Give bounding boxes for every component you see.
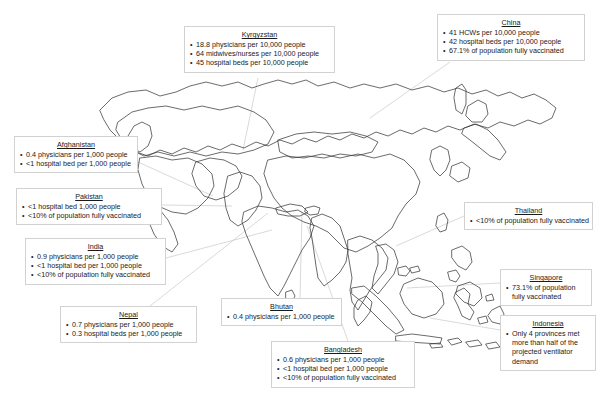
callout-title: Thailand <box>470 206 587 215</box>
callout-items: 0.4 physicians per 1,000 people <box>227 312 336 321</box>
leader-line-nepal <box>150 213 268 306</box>
outline-china <box>264 154 420 252</box>
leader-line-thailand <box>396 216 464 246</box>
callout-item: <10% of population fully vaccinated <box>31 270 160 279</box>
callout-kyrgyzstan[interactable]: Kyrgyzstan 18.8 physicians per 10,000 pe… <box>184 26 335 73</box>
callout-title: Pakistan <box>22 192 156 201</box>
outline-island-b <box>486 294 494 301</box>
callout-item: 0.4 physicians per 1,000 people <box>20 150 132 159</box>
callout-title: China <box>443 18 579 27</box>
leader-line-indonesia <box>430 318 500 330</box>
callout-item: 41 HCWs per 10,000 people <box>443 28 579 37</box>
outline-philippines-visayas <box>448 270 460 282</box>
callout-singapore[interactable]: Singapore 73.1% of population fully vacc… <box>500 269 592 306</box>
callout-title: Bhutan <box>227 302 336 311</box>
leader-line-pakistan <box>162 205 232 206</box>
callout-item: 42 hospital beds per 10,000 people <box>443 37 579 46</box>
callout-item: 67.1% of population fully vaccinated <box>443 46 579 55</box>
callout-pakistan[interactable]: Pakistan <1 hospital bed 1,000 people <1… <box>16 188 162 225</box>
outline-philippines-luzon <box>452 246 472 270</box>
leader-line-india <box>166 230 272 258</box>
callout-title: India <box>31 242 160 251</box>
callout-item: <1 hospital bed per 1,000 people <box>20 159 132 168</box>
callout-item: Only 4 provinces met more than half of t… <box>506 329 590 366</box>
callout-items: 0.6 physicians per 1,000 people <1 hospi… <box>277 355 409 383</box>
callout-items: 0.7 physicians per 1,000 people 0.3 hosp… <box>66 320 191 338</box>
callout-items: Only 4 provinces met more than half of t… <box>506 329 590 366</box>
outline-japan-hokkaido <box>466 100 488 122</box>
callout-title: Singapore <box>506 273 586 282</box>
callout-bhutan[interactable]: Bhutan 0.4 physicians per 1,000 people <box>221 298 342 326</box>
callout-items: 73.1% of population fully vaccinated <box>506 283 586 301</box>
outline-vietnam <box>372 244 398 294</box>
callout-india[interactable]: India 0.9 physicians per 1,000 people <1… <box>25 238 166 285</box>
callout-items: 0.9 physicians per 1,000 people <1 hospi… <box>31 252 160 280</box>
callout-item: <10% of population fully vaccinated <box>277 373 409 382</box>
outline-bhutan <box>305 206 320 215</box>
outline-malay-peninsula <box>354 296 372 326</box>
outline-japan-honshu <box>462 124 506 160</box>
callout-bangladesh[interactable]: Bangladesh 0.6 physicians per 1,000 peop… <box>271 341 415 388</box>
outline-nepal <box>276 204 308 216</box>
callout-afghanistan[interactable]: Afghanistan 0.4 physicians per 1,000 peo… <box>14 136 138 173</box>
figure-canvas: Kyrgyzstan 18.8 physicians per 10,000 pe… <box>0 0 606 402</box>
outline-afghanistan <box>192 158 242 200</box>
outline-sunda-1 <box>448 338 462 345</box>
callout-item: <1 hospital bed per 1,000 people <box>31 261 160 270</box>
callout-item: 73.1% of population fully vaccinated <box>506 283 586 301</box>
callout-title: Bangladesh <box>277 345 409 354</box>
outline-korea <box>430 146 450 176</box>
callout-items: 41 HCWs per 10,000 people 42 hospital be… <box>443 28 579 56</box>
callout-item: <1 hospital bed 1,000 people <box>22 202 156 211</box>
leader-line-bhutan <box>300 212 302 298</box>
outline-philippines-mindanao <box>456 282 482 306</box>
outline-taiwan <box>436 213 448 232</box>
callout-item: 0.4 physicians per 1,000 people <box>227 312 336 321</box>
outline-indochina <box>348 236 388 310</box>
callout-item: <10% of population fully vaccinated <box>22 211 156 220</box>
callout-title: Indonesia <box>506 319 590 328</box>
callout-title: Afghanistan <box>20 140 132 149</box>
leader-line-singapore <box>407 283 500 288</box>
outline-hainan <box>398 266 410 276</box>
leader-line-kyrgyzstan <box>243 78 258 150</box>
callout-china[interactable]: China 41 HCWs per 10,000 people 42 hospi… <box>437 14 585 61</box>
outline-sumatra <box>352 286 404 334</box>
outline-island-c <box>478 316 488 324</box>
outline-sulawesi <box>454 288 474 320</box>
callout-items: <10% of population fully vaccinated <box>470 216 587 225</box>
callout-item: 0.6 physicians per 1,000 people <box>277 355 409 364</box>
callout-items: 0.4 physicians per 1,000 people <1 hospi… <box>20 150 132 168</box>
callout-items: 18.8 physicians per 10,000 people 64 mid… <box>190 40 329 68</box>
callout-nepal[interactable]: Nepal 0.7 physicians per 1,000 people 0.… <box>60 306 197 343</box>
outline-japan-kyushu <box>450 162 470 182</box>
callout-item: 0.9 physicians per 1,000 people <box>31 252 160 261</box>
outline-north-asia <box>100 80 556 156</box>
outline-borneo <box>400 278 444 318</box>
callout-thailand[interactable]: Thailand <10% of population fully vaccin… <box>464 202 593 230</box>
outline-sunda-2 <box>466 340 482 347</box>
callout-item: 45 hospital beds per 10,000 people <box>190 58 329 67</box>
callout-item: 0.3 hospital beds per 1,000 people <box>66 329 191 338</box>
callout-item: 0.7 physicians per 1,000 people <box>66 320 191 329</box>
callout-items: <1 hospital bed 1,000 people <10% of pop… <box>22 202 156 220</box>
callout-indonesia[interactable]: Indonesia Only 4 provinces met more than… <box>500 315 596 371</box>
outline-island-a <box>410 266 420 273</box>
callout-item: <10% of population fully vaccinated <box>470 216 587 225</box>
callout-item: <1 hospital bed per 1,000 people <box>277 364 409 373</box>
outline-india <box>242 206 314 296</box>
callout-item: 64 midwives/nurses per 10,000 people <box>190 49 329 58</box>
outline-sunda-3 <box>486 342 500 349</box>
callout-title: Nepal <box>66 310 191 319</box>
callout-item: 18.8 physicians per 10,000 people <box>190 40 329 49</box>
callout-title: Kyrgyzstan <box>190 30 329 39</box>
